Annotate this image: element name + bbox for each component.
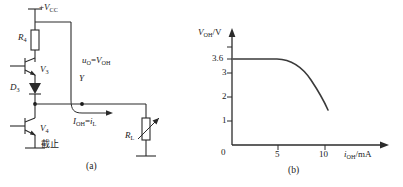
chart-ytick-label-36: 3.6: [212, 54, 223, 63]
diode-d3-triangle: [29, 83, 41, 94]
resistor-rl-body: [142, 118, 150, 140]
panel-a-caption: (a): [86, 162, 97, 172]
chart-ytick-label-1: 1: [222, 116, 227, 125]
v3-collector-lead: [25, 58, 35, 62]
chart-y-axis-arrow: [229, 28, 236, 37]
v3-emitter-arrow: [30, 71, 36, 76]
y-node-dot: [80, 102, 84, 106]
circuit-panel: [10, 9, 159, 156]
chart-x-axis-label: iOH/mA: [344, 150, 371, 159]
transistor-v4-label: V4: [40, 124, 49, 133]
output-voltage-label: uO=VOH: [82, 56, 110, 65]
chart-xtick-label-5: 5: [275, 150, 280, 159]
chart-x-axis-arrow: [380, 142, 389, 149]
chart-curve-voh: [233, 59, 328, 110]
chart-ytick-label-0: 0: [221, 148, 226, 157]
diode-d3-label: D3: [10, 83, 20, 92]
chart-y-axis-label: VOH/V: [198, 28, 221, 37]
panel-b-caption: (b): [288, 166, 299, 176]
current-arrow-head: [106, 110, 113, 116]
current-path-elbow: [71, 100, 82, 113]
resistor-r4-body: [31, 30, 39, 50]
output-current-label: IOH=iL: [73, 117, 96, 126]
output-node-y-label: Y: [79, 74, 84, 83]
v4-emitter-arrow: [30, 131, 36, 136]
resistor-rl-label: RL: [125, 131, 134, 140]
chart-xtick-label-10: 10: [319, 150, 328, 159]
chart-ytick-label-3: 3: [222, 68, 227, 77]
figure-root: +VCC R4 V3 D3 V4 截止 Y uO=VOH IOH=iL RL (…: [0, 0, 403, 187]
chart-ytick-label-2: 2: [222, 92, 227, 101]
supply-label: +VCC: [39, 3, 58, 12]
cutoff-note-label: 截止: [41, 140, 59, 149]
transistor-v3-label: V3: [40, 65, 49, 74]
resistor-r4-label: R4: [18, 33, 27, 42]
chart-panel: [227, 28, 389, 150]
v4-collector-lead: [25, 118, 35, 122]
